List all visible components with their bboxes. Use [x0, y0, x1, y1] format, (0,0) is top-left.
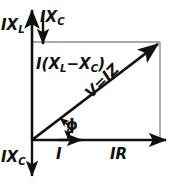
label-capacitive-reactance-top: IXC: [40, 10, 65, 27]
label-phase-angle: ϕ: [66, 118, 78, 133]
label-net-reactance: I(XL−XC): [36, 57, 105, 74]
label-resistive-drop: IR: [110, 147, 127, 162]
phasor-diagram: IXL IXC IXC I(XL−XC) I IR ϕ V=IZ: [0, 0, 173, 185]
label-capacitive-reactance-bottom: IXC: [1, 150, 26, 167]
label-current: I: [56, 147, 62, 162]
label-inductive-reactance: IXL: [1, 18, 25, 35]
